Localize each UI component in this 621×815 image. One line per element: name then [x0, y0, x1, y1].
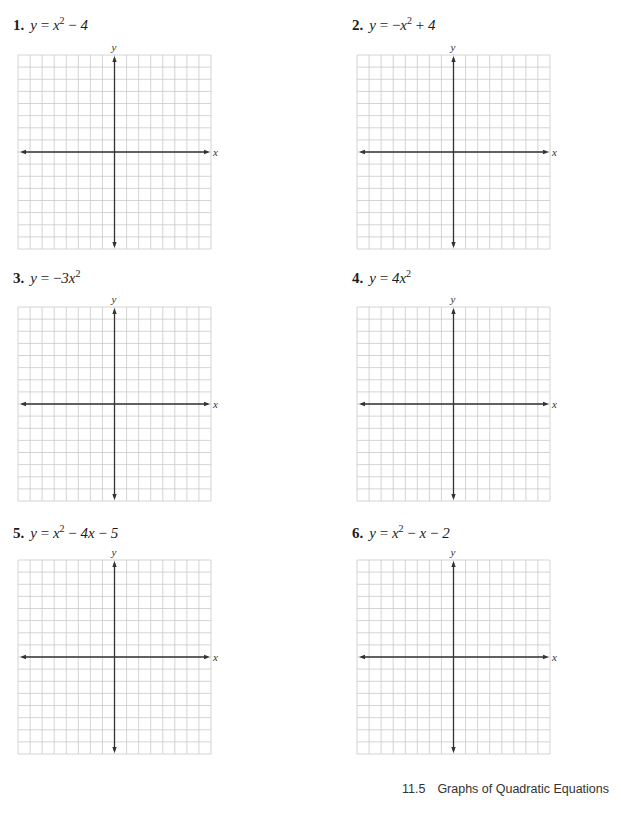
y-axis-arrow-top — [451, 56, 455, 62]
y-axis-label: y — [112, 42, 117, 53]
grid-lines — [18, 55, 231, 251]
term: x — [392, 525, 399, 541]
y-axis-arrow-bottom — [112, 494, 116, 500]
section-number: 11.5 — [402, 782, 425, 796]
coordinate-grid-3[interactable]: xy — [18, 307, 248, 522]
y-axis-arrow-top — [451, 308, 455, 314]
problem-number: 2. — [352, 17, 363, 33]
coordinate-grid-2[interactable]: xy — [357, 55, 587, 270]
x-axis-arrow-right — [204, 402, 210, 406]
equals-sign: = — [376, 525, 392, 541]
grid-lines — [357, 55, 570, 251]
page-footer: 11.5Graphs of Quadratic Equations — [402, 782, 609, 796]
y-axis-label: y — [451, 294, 456, 305]
equation: y = x2 − 4x − 5 — [30, 525, 118, 541]
term: 4 — [81, 17, 89, 33]
equation-lhs: y — [369, 525, 376, 541]
coordinate-grid-4[interactable]: xy — [357, 307, 587, 522]
x-axis-label: x — [213, 652, 218, 663]
operator: − — [95, 525, 111, 541]
equals-sign: = — [376, 270, 392, 286]
y-axis-label: y — [112, 547, 117, 558]
y-axis-arrow-bottom — [112, 747, 116, 753]
x-axis-label: x — [213, 147, 218, 158]
x-axis-arrow-right — [543, 655, 549, 659]
equals-sign: = — [37, 270, 53, 286]
x-axis-arrow-left — [20, 402, 26, 406]
coordinate-grid-5[interactable]: xy — [18, 560, 248, 775]
equation: y = −3x2 — [30, 270, 80, 286]
y-axis-arrow-bottom — [451, 747, 455, 753]
term: x — [53, 525, 60, 541]
y-axis-label: y — [112, 294, 117, 305]
operator: − — [404, 525, 420, 541]
exponent: 2 — [406, 268, 411, 279]
y-axis-arrow-bottom — [451, 242, 455, 248]
equals-sign: = — [37, 17, 53, 33]
section-title: Graphs of Quadratic Equations — [437, 782, 609, 796]
y-axis-label: y — [451, 42, 456, 53]
y-axis-arrow-top — [112, 561, 116, 567]
y-axis-arrow-top — [451, 561, 455, 567]
x-axis-label: x — [552, 399, 557, 410]
y-axis-arrow-top — [112, 308, 116, 314]
coordinate-grid-1[interactable]: xy — [18, 55, 248, 270]
coordinate-grid-6[interactable]: xy — [357, 560, 587, 775]
equation-lhs: y — [30, 525, 37, 541]
x-axis-label: x — [552, 147, 557, 158]
problem-number: 4. — [352, 270, 363, 286]
term: 3x — [61, 270, 75, 286]
x-axis-arrow-right — [204, 655, 210, 659]
x-axis-label: x — [213, 399, 218, 410]
grid-lines — [357, 560, 570, 756]
equation: y = x2 − x − 2 — [369, 525, 449, 541]
equation: y = 4x2 — [369, 270, 411, 286]
problem-number: 1. — [13, 17, 24, 33]
x-axis-arrow-right — [204, 150, 210, 154]
y-axis-arrow-bottom — [451, 494, 455, 500]
problem-1-label: 1.y = x2 − 4 — [13, 16, 88, 34]
term: 4x — [81, 525, 95, 541]
term: 4x — [392, 270, 406, 286]
problem-number: 5. — [13, 525, 24, 541]
x-axis-label: x — [552, 652, 557, 663]
equation-lhs: y — [369, 17, 376, 33]
x-axis-arrow-left — [359, 150, 365, 154]
operator: − — [426, 525, 442, 541]
operator: + — [412, 17, 428, 33]
problem-3-label: 3.y = −3x2 — [13, 269, 81, 287]
y-axis-arrow-bottom — [112, 242, 116, 248]
x-axis-arrow-right — [543, 402, 549, 406]
equation-lhs: y — [369, 270, 376, 286]
operator: − — [65, 525, 81, 541]
y-axis-label: y — [451, 547, 456, 558]
grid-lines — [18, 560, 231, 756]
problem-6-label: 6.y = x2 − x − 2 — [352, 524, 450, 542]
exponent: 2 — [76, 268, 81, 279]
x-axis-arrow-left — [20, 150, 26, 154]
equation-lhs: y — [30, 270, 37, 286]
grid-lines — [18, 307, 231, 503]
problem-number: 6. — [352, 525, 363, 541]
equation: y = x2 − 4 — [30, 17, 88, 33]
operator: − — [65, 17, 81, 33]
term: x — [53, 17, 60, 33]
problem-number: 3. — [13, 270, 24, 286]
problem-5-label: 5.y = x2 − 4x − 5 — [13, 524, 118, 542]
equation-lhs: y — [30, 17, 37, 33]
equals-sign: = — [37, 525, 53, 541]
term: 2 — [442, 525, 450, 541]
equation: y = −x2 + 4 — [369, 17, 435, 33]
problem-4-label: 4.y = 4x2 — [352, 269, 411, 287]
x-axis-arrow-left — [20, 655, 26, 659]
x-axis-arrow-left — [359, 655, 365, 659]
term: 5 — [111, 525, 119, 541]
equals-sign: = — [376, 17, 392, 33]
term: 4 — [428, 17, 436, 33]
y-axis-arrow-top — [112, 56, 116, 62]
grid-lines — [357, 307, 570, 503]
x-axis-arrow-right — [543, 150, 549, 154]
problem-2-label: 2.y = −x2 + 4 — [352, 16, 436, 34]
x-axis-arrow-left — [359, 402, 365, 406]
